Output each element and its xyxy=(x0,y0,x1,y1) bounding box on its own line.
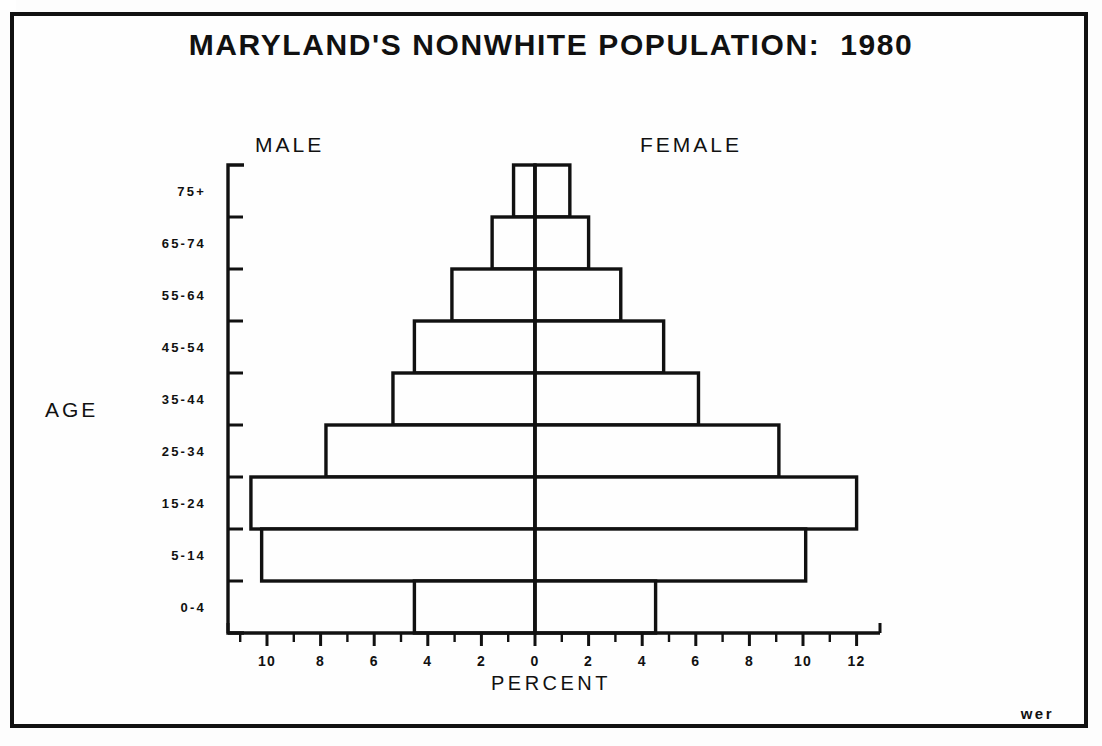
bar-female-55-64 xyxy=(535,269,621,321)
y-tick-label-55-64: 55-64 xyxy=(162,288,206,303)
bar-female-75+ xyxy=(535,165,570,217)
bar-male-5-14 xyxy=(262,529,535,581)
bar-female-25-34 xyxy=(535,425,779,477)
y-tick-label-75+: 75+ xyxy=(177,184,206,199)
x-tick-label: 2 xyxy=(477,653,486,669)
x-tick-label: 10 xyxy=(794,653,812,669)
y-tick-label-15-24: 15-24 xyxy=(162,496,206,511)
bar-female-35-44 xyxy=(535,373,698,425)
bar-female-0-4 xyxy=(535,581,656,633)
bar-male-75+ xyxy=(514,165,535,217)
bar-male-55-64 xyxy=(452,269,535,321)
x-tick-label: 6 xyxy=(370,653,379,669)
y-tick-label-0-4: 0-4 xyxy=(181,600,206,615)
y-tick-label-45-54: 45-54 xyxy=(162,340,206,355)
y-tick-label-65-74: 65-74 xyxy=(162,236,206,251)
bar-female-15-24 xyxy=(535,477,857,529)
y-tick-label-5-14: 5-14 xyxy=(171,548,206,563)
x-tick-label: 12 xyxy=(848,653,866,669)
x-tick-label: 4 xyxy=(638,653,647,669)
x-tick-label: 2 xyxy=(584,653,593,669)
bar-male-25-34 xyxy=(326,425,535,477)
bar-male-15-24 xyxy=(251,477,535,529)
bar-male-45-54 xyxy=(414,321,535,373)
x-tick-label: 0 xyxy=(531,653,540,669)
y-tick-label-25-34: 25-34 xyxy=(162,444,206,459)
x-tick-label: 4 xyxy=(423,653,432,669)
bar-male-35-44 xyxy=(393,373,535,425)
population-pyramid-plot: 75+65-7455-6445-5435-4425-3415-245-140-4… xyxy=(0,0,1102,746)
figure-page: MARYLAND'S NONWHITE POPULATION: 1980 MAL… xyxy=(0,0,1102,746)
bar-female-45-54 xyxy=(535,321,664,373)
x-tick-label: 6 xyxy=(691,653,700,669)
y-tick-label-35-44: 35-44 xyxy=(162,392,206,407)
y-axis-line xyxy=(228,165,244,633)
x-tick-label: 8 xyxy=(316,653,325,669)
bar-male-0-4 xyxy=(414,581,535,633)
x-tick-label: 10 xyxy=(258,653,276,669)
bars-group xyxy=(251,165,857,633)
x-tick-label: 8 xyxy=(745,653,754,669)
bar-female-5-14 xyxy=(535,529,806,581)
bar-female-65-74 xyxy=(535,217,589,269)
bar-male-65-74 xyxy=(492,217,535,269)
